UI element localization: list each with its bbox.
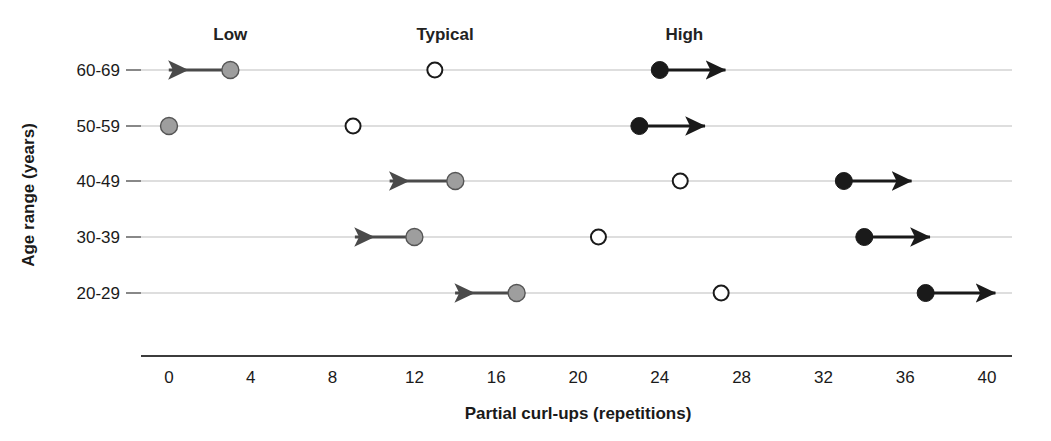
- x-tick-label: 24: [650, 368, 669, 387]
- x-tick-label: 20: [569, 368, 588, 387]
- typical-marker: [714, 286, 729, 301]
- low-marker: [447, 173, 464, 190]
- x-tick-label-group: 0481216202428323640: [164, 368, 996, 387]
- typical-marker: [427, 63, 442, 78]
- category-label-60-69: 60-69: [77, 61, 120, 80]
- low-marker: [161, 118, 178, 135]
- high-marker: [835, 173, 852, 190]
- typical-marker: [346, 119, 361, 134]
- x-tick-label: 40: [978, 368, 997, 387]
- column-header-group: LowTypicalHigh: [213, 25, 703, 44]
- high-marker: [856, 229, 873, 246]
- typical-marker: [673, 174, 688, 189]
- category-tick-group: [126, 70, 141, 293]
- category-label-40-49: 40-49: [77, 172, 120, 191]
- column-header-low: Low: [213, 25, 248, 44]
- x-tick-label: 4: [246, 368, 255, 387]
- low-marker: [406, 229, 423, 246]
- x-axis-title: Partial curl-ups (repetitions): [465, 404, 692, 423]
- category-label-20-29: 20-29: [77, 284, 120, 303]
- partial-curlups-chart: LowTypicalHigh 60-6950-5940-4930-3920-29…: [0, 0, 1051, 441]
- category-label-30-39: 30-39: [77, 228, 120, 247]
- x-tick-label: 8: [328, 368, 337, 387]
- y-axis-title: Age range (years): [19, 123, 38, 267]
- high-marker: [651, 62, 668, 79]
- x-tick-label: 28: [732, 368, 751, 387]
- x-tick-label: 16: [487, 368, 506, 387]
- low-marker: [222, 62, 239, 79]
- chart-container: LowTypicalHigh 60-6950-5940-4930-3920-29…: [0, 0, 1051, 441]
- high-marker: [631, 118, 648, 135]
- typical-marker: [591, 230, 606, 245]
- column-header-typical: Typical: [416, 25, 473, 44]
- x-tick-label: 36: [896, 368, 915, 387]
- column-header-high: High: [665, 25, 703, 44]
- low-marker: [508, 285, 525, 302]
- x-tick-label: 32: [814, 368, 833, 387]
- category-label-50-59: 50-59: [77, 117, 120, 136]
- high-marker: [917, 285, 934, 302]
- category-label-group: 60-6950-5940-4930-3920-29: [77, 61, 120, 303]
- x-tick-label: 0: [164, 368, 173, 387]
- x-tick-label: 12: [405, 368, 424, 387]
